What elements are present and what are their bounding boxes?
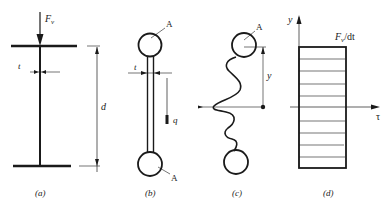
caption-d: (d) (323, 188, 334, 198)
depth-dimension (79, 46, 100, 172)
bottom-area-circle (138, 152, 162, 176)
shear-flow-figure: Fv t d (a) A A (0, 0, 392, 209)
force-label: Fv (44, 13, 55, 26)
panel-d-shear-stress-distribution: y τ Fv/dt (d) (287, 14, 380, 198)
top-area-circle (232, 33, 256, 57)
wavy-web (213, 57, 240, 151)
caption-b: (b) (145, 188, 156, 198)
shear-flow-arrow-icon (166, 78, 169, 124)
thickness-dimension (30, 70, 60, 74)
area-label-bottom: A (171, 173, 178, 183)
thickness-label: t (134, 62, 137, 72)
force-arrow-icon (37, 12, 44, 46)
bottom-area-circle (224, 150, 248, 174)
stress-hatching (299, 59, 345, 157)
distance-label: y (266, 70, 272, 81)
tau-axis-label: τ (376, 111, 380, 122)
caption-a: (a) (35, 188, 46, 198)
panel-c-web-deformation: A y (c) (198, 22, 272, 198)
top-area-circle (139, 34, 162, 57)
panel-a-ibeam: Fv t d (a) (11, 12, 107, 198)
area-label-top: A (256, 22, 263, 32)
thickness-label: t (18, 61, 21, 71)
depth-label: d (101, 101, 107, 112)
panel-b-idealized-section: A A t q (b) (128, 19, 178, 198)
caption-c: (c) (232, 188, 242, 198)
stress-block (299, 47, 346, 168)
y-axis-label: y (287, 14, 293, 25)
stress-value-label: Fv/dt (334, 31, 355, 44)
shear-flow-label: q (173, 115, 178, 125)
area-label-top: A (166, 19, 173, 29)
